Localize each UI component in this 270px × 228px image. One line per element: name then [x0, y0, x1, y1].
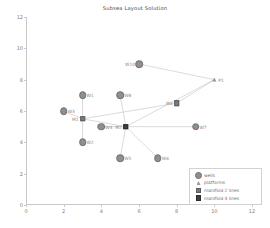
- page-title: Subsea Layout Solution: [0, 5, 270, 11]
- y-tick-label: 12: [17, 14, 23, 20]
- y-tick-label: 2: [20, 171, 23, 177]
- x-tick-label: 0: [24, 208, 27, 214]
- x-tick-label: 12: [249, 208, 255, 214]
- y-tick-mark: [24, 142, 26, 143]
- y-tick-label: 4: [20, 139, 23, 145]
- data-point-label: W7: [200, 124, 207, 129]
- legend-item-label: wells: [204, 173, 215, 178]
- legend-item-manifold-2-lines[interactable]: manifold 2 lines: [193, 187, 258, 195]
- legend-item-manifold-4-lines[interactable]: manifold 4 lines: [193, 194, 258, 202]
- x-tick-label: 4: [100, 208, 103, 214]
- y-tick-label: 6: [20, 108, 23, 114]
- data-point-w4[interactable]: [98, 123, 106, 131]
- connection-line: [139, 64, 214, 80]
- data-point-label: P1: [218, 77, 223, 82]
- data-point-label: W2: [87, 140, 94, 145]
- connection-line: [83, 103, 177, 119]
- data-point-w6[interactable]: [154, 154, 162, 162]
- data-point-w3[interactable]: [60, 107, 68, 115]
- data-point-label: W3: [68, 109, 75, 114]
- chart-legend: wellsplatformsmanifold 2 linesmanifold 4…: [189, 168, 262, 205]
- legend-item-wells[interactable]: wells: [193, 172, 258, 180]
- legend-item-platforms[interactable]: platforms: [193, 179, 258, 187]
- filled-circle-marker: [193, 172, 204, 179]
- chart-container: Subsea Layout Solution W1W2W3W4W5W6W7W8W…: [0, 0, 270, 228]
- data-point-w5[interactable]: [116, 154, 124, 162]
- data-point-label: M1: [72, 116, 79, 121]
- x-tick-label: 10: [211, 208, 217, 214]
- x-tick-label: 6: [137, 208, 140, 214]
- y-tick-mark: [24, 174, 26, 175]
- data-point-w10[interactable]: [135, 60, 143, 68]
- y-tick-label: 10: [17, 45, 23, 51]
- data-point-w7[interactable]: [192, 123, 200, 131]
- x-tick-mark: [64, 205, 65, 207]
- x-tick-mark: [26, 205, 27, 207]
- x-tick-mark: [101, 205, 102, 207]
- legend-item-label: manifold 2 lines: [204, 188, 239, 193]
- x-tick-label: 8: [175, 208, 178, 214]
- y-tick-mark: [24, 80, 26, 81]
- data-point-label: W5: [124, 156, 131, 161]
- x-tick-mark: [214, 205, 215, 207]
- y-tick-label: 0: [20, 202, 23, 208]
- y-tick-label: 8: [20, 77, 23, 83]
- x-tick-mark: [177, 205, 178, 207]
- data-point-label: W6: [162, 156, 169, 161]
- triangle-marker: [193, 181, 204, 185]
- y-tick-mark: [24, 48, 26, 49]
- data-point-w8[interactable]: [116, 92, 124, 100]
- legend-item-label: platforms: [204, 180, 225, 185]
- small-dark-square-marker: [193, 195, 204, 200]
- connection-line: [120, 95, 126, 126]
- connection-line: [177, 80, 215, 103]
- data-point-m3[interactable]: [174, 100, 180, 106]
- data-point-m1[interactable]: [80, 116, 86, 122]
- y-tick-mark: [24, 111, 26, 112]
- legend-item-label: manifold 4 lines: [204, 196, 239, 201]
- data-point-label: W1: [87, 93, 94, 98]
- data-point-w2[interactable]: [79, 139, 87, 147]
- x-tick-mark: [139, 205, 140, 207]
- x-tick-label: 2: [62, 208, 65, 214]
- data-point-w1[interactable]: [79, 92, 87, 100]
- data-point-m2[interactable]: [123, 124, 129, 130]
- data-point-label: M2: [115, 124, 122, 129]
- small-square-marker: [193, 188, 204, 193]
- data-point-label: W8: [124, 93, 131, 98]
- y-tick-mark: [24, 17, 26, 18]
- data-point-label: W4: [105, 124, 112, 129]
- data-point-label: W10: [125, 62, 135, 67]
- x-tick-mark: [252, 205, 253, 207]
- connection-line: [126, 127, 158, 158]
- data-point-label: M3: [166, 101, 173, 106]
